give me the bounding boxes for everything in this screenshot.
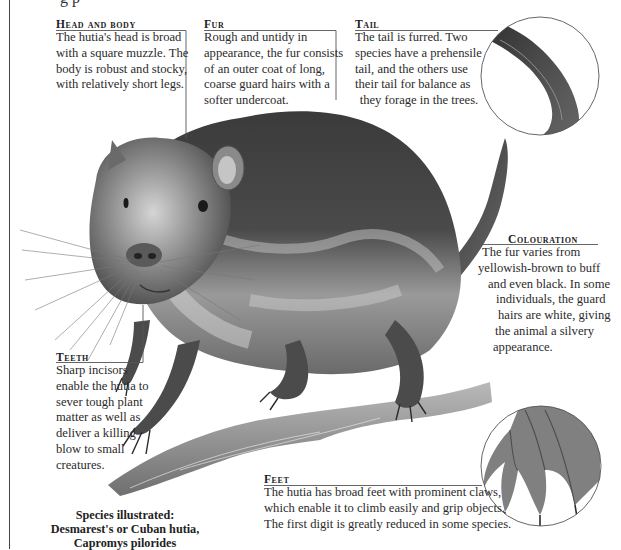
callout-colouration: Colouration The fur varies from yellowis…: [482, 233, 606, 356]
callout-head-and-body: Head and body The hutia's head is broad …: [56, 18, 190, 93]
callout-fur: Fur Rough and untidy in appearance, the …: [204, 18, 344, 109]
callout-text: The tail is furred. Two species have a p…: [355, 30, 483, 109]
callout-text: The hutia's head is broad with a square …: [56, 30, 190, 93]
callout-heading: Teeth: [56, 351, 156, 363]
callout-teeth: Teeth Sharp incisors enable the hutia to…: [56, 351, 156, 474]
callout-text: The hutia has broad feet with prominent …: [264, 485, 504, 532]
species-illustrated-caption: Species illustrated: Desmarest's or Cuba…: [40, 508, 210, 550]
callout-tail: Tail The tail is furred. Two species hav…: [355, 18, 483, 109]
callout-heading: Fur: [204, 18, 344, 30]
callout-heading: Feet: [264, 473, 504, 485]
callout-feet: Feet The hutia has broad feet with promi…: [264, 473, 504, 532]
callout-heading: Tail: [355, 18, 483, 30]
callout-text: Rough and untidy in appearance, the fur …: [204, 30, 344, 109]
callout-text: The fur varies from yellowish-brown to b…: [482, 245, 606, 356]
tail-inset: [478, 17, 599, 168]
callout-text: Sharp incisors enable the hutia to sever…: [56, 363, 156, 474]
callout-heading: Head and body: [56, 18, 190, 30]
callout-heading: Colouration: [482, 233, 606, 245]
